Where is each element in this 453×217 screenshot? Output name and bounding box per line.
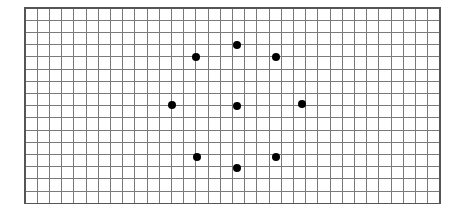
data-point bbox=[272, 153, 280, 161]
data-point bbox=[192, 53, 200, 61]
data-point bbox=[233, 41, 241, 49]
data-point bbox=[233, 102, 241, 110]
data-point bbox=[168, 101, 176, 109]
data-point bbox=[193, 153, 201, 161]
data-point bbox=[233, 164, 241, 172]
grid-plot bbox=[0, 0, 453, 217]
data-point bbox=[272, 53, 280, 61]
grid-figure bbox=[0, 0, 453, 217]
data-point bbox=[298, 100, 306, 108]
